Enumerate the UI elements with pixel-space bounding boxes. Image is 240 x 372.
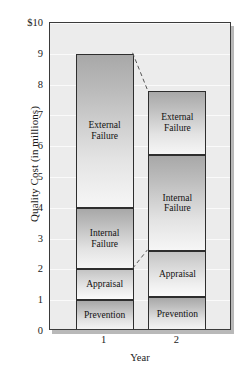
bar-year-1[interactable]: ExternalFailureInternalFailureAppraisalP…: [76, 23, 134, 330]
y-axis-tick-label: 0: [38, 325, 43, 336]
y-axis-tick-labels: 0123456789$10: [0, 0, 46, 372]
bar-segment[interactable]: Prevention: [76, 300, 134, 330]
y-axis-tick-label: 8: [38, 78, 43, 89]
bar-segment-label: ExternalFailure: [160, 112, 194, 133]
bar-segment[interactable]: ExternalFailure: [76, 54, 134, 208]
y-axis-tick-label: $10: [27, 17, 43, 28]
plot-area: ExternalFailureInternalFailureAppraisalP…: [49, 22, 231, 330]
y-axis-tick-label: 3: [38, 232, 43, 243]
bar-segment-label: Appraisal: [158, 269, 197, 280]
bar-segment[interactable]: Prevention: [148, 297, 206, 330]
bar-segment[interactable]: ExternalFailure: [148, 91, 206, 156]
y-axis-tick-label: 4: [38, 201, 43, 212]
bar-segment-label: ExternalFailure: [88, 120, 122, 141]
bar-segment-label: Appraisal: [85, 279, 124, 290]
bar-segment-label: Prevention: [156, 309, 199, 320]
y-axis-tick-label: 7: [38, 109, 43, 120]
bar-segment[interactable]: Appraisal: [76, 269, 134, 300]
y-axis-tick-label: 5: [38, 171, 43, 182]
x-axis-tick-label: 2: [174, 334, 179, 345]
y-axis-tick-label: 2: [38, 263, 43, 274]
bar-segment[interactable]: InternalFailure: [148, 155, 206, 250]
x-axis-title: Year: [49, 352, 231, 363]
x-axis-tick-labels: 12: [49, 334, 231, 350]
bar-year-2[interactable]: ExternalFailureInternalFailureAppraisalP…: [148, 23, 206, 330]
bar-segment-label: InternalFailure: [89, 228, 121, 249]
bar-segment[interactable]: InternalFailure: [76, 208, 134, 270]
stacked-bar-chart: Quality Cost (in millions) 0123456789$10…: [0, 0, 240, 372]
bar-segment-label: InternalFailure: [162, 193, 194, 214]
y-axis-tick-label: 9: [38, 47, 43, 58]
y-axis-tick-label: 6: [38, 140, 43, 151]
bar-segment[interactable]: Appraisal: [148, 251, 206, 297]
bar-segment-label: Prevention: [83, 310, 126, 321]
y-axis-tick-label: 1: [38, 294, 43, 305]
x-axis-tick-label: 1: [101, 334, 106, 345]
